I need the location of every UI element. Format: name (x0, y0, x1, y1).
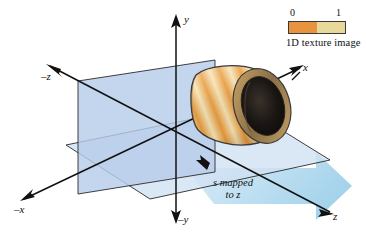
axis-label-x: x (303, 62, 308, 73)
figure-canvas: y –y x –x z –z s mapped to z 0 1 1D text… (0, 0, 366, 240)
legend-caption: 1D texture image (286, 37, 358, 48)
flow-annotation-line2: to z (196, 189, 270, 201)
axis-label-neg-x: –x (14, 204, 24, 215)
legend-swatch-high (317, 22, 345, 33)
arrowhead-x (289, 65, 304, 76)
legend-tick-row: 0 1 (288, 8, 346, 21)
legend-swatch-low (289, 22, 317, 33)
axis-label-z: z (333, 211, 337, 222)
flow-annotation-line1: s mapped (196, 177, 270, 189)
axis-label-y: y (184, 14, 189, 25)
legend-tick-max: 1 (336, 8, 341, 18)
flow-arrow-annotation: s mapped to z (196, 177, 270, 201)
legend-tick-min: 0 (290, 8, 295, 18)
texture-legend: 0 1 1D texture image (286, 8, 358, 48)
legend-color-bar (288, 21, 346, 34)
axis-label-neg-z: –z (41, 71, 51, 82)
axis-label-neg-y: –y (178, 214, 188, 225)
